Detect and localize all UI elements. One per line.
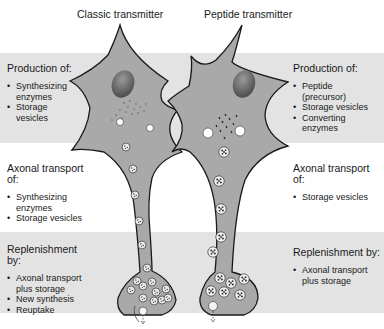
classic-transport-heading: Axonal transport of:: [7, 163, 92, 185]
classic-production-item: Synthesizing enzymes: [7, 81, 82, 102]
classic-transport-item: Storage vesicles: [7, 213, 92, 224]
peptide-transport-panel: Axonal transport of: Storage vesicles: [293, 163, 383, 203]
classic-production-heading: Production of:: [7, 63, 82, 74]
classic-replenishment-heading: Replenishment by:: [7, 244, 92, 266]
classic-production-item: Storage vesicles: [7, 102, 82, 123]
peptide-production-panel: Production of: Peptide (precursor) Stora…: [293, 63, 381, 134]
peptide-transport-item: Storage vesicles: [293, 192, 383, 203]
classic-replenishment-panel: Replenishment by: Axonal transport plus …: [7, 244, 92, 315]
classic-transport-item: Synthesizing enzymes: [7, 192, 81, 213]
classic-transmitter-title: Classic transmitter: [77, 8, 163, 20]
peptide-transport-heading: Axonal transport of:: [293, 163, 383, 185]
peptide-replenishment-item: Axonal transport plus storage: [293, 265, 372, 286]
classic-replenishment-item: Reuptake: [7, 305, 92, 316]
peptide-neuron: [168, 25, 288, 322]
classic-production-panel: Production of: Synthesizing enzymes Stor…: [7, 63, 82, 123]
peptide-production-item: Converting enzymes: [293, 113, 357, 134]
classic-replenishment-item: New synthesis: [7, 294, 92, 305]
classic-transport-panel: Axonal transport of: Synthesizing enzyme…: [7, 163, 92, 224]
peptide-production-item: Peptide (precursor): [293, 81, 352, 102]
peptide-production-heading: Production of:: [293, 63, 381, 74]
peptide-replenishment-heading: Replenishment by:: [293, 247, 381, 258]
peptide-transmitter-title: Peptide transmitter: [204, 8, 292, 20]
classic-replenishment-item: Axonal transport plus storage: [7, 273, 92, 294]
peptide-production-item: Storage vesicles: [293, 102, 381, 113]
peptide-replenishment-panel: Replenishment by: Axonal transport plus …: [293, 247, 381, 286]
